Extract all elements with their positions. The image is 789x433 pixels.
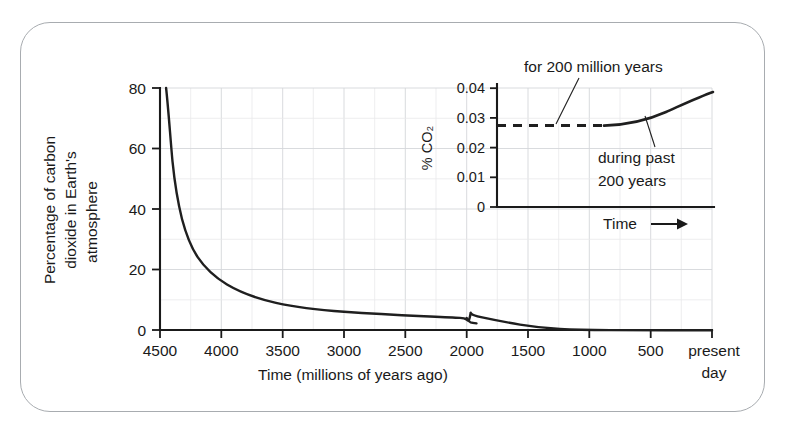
x-tick-label-500: 500 xyxy=(638,342,664,359)
x-tick-label-4500: 4500 xyxy=(143,342,178,359)
main-y-axis-title-line1: Percentage of carbon xyxy=(41,136,58,284)
inset-y-tick-label-0.04: 0.04 xyxy=(457,80,485,96)
inset-y-axis-title: % CO₂ xyxy=(419,126,435,170)
inset-leader-line-stable xyxy=(556,78,579,124)
annotation-during-past: during past xyxy=(598,149,675,166)
x-tick-label-present: present xyxy=(688,342,740,359)
x-tick-label-1500: 1500 xyxy=(511,342,546,359)
main-y-axis-title: Percentage of carbon dioxide in Earth's … xyxy=(41,136,100,284)
main-y-axis-title-line2: dioxide in Earth's xyxy=(62,151,79,269)
main-plot-axes xyxy=(152,88,712,338)
main-x-axis-title: Time (millions of years ago) xyxy=(258,366,448,383)
x-tick-label-2500: 2500 xyxy=(388,342,423,359)
inset-y-axis-title-text: % CO₂ xyxy=(419,126,435,170)
y-tick-label-40: 40 xyxy=(129,201,147,218)
annotation-for-200-million-years: for 200 million years xyxy=(524,58,663,75)
main-y-tick-labels: 0 20 40 60 80 xyxy=(129,80,147,339)
co2-figure: 0 20 40 60 80 4500 4000 3500 3000 2500 2… xyxy=(0,0,789,433)
x-tick-label-1000: 1000 xyxy=(572,342,607,359)
main-y-axis-title-line3: atmosphere xyxy=(83,181,100,263)
y-tick-label-0: 0 xyxy=(137,322,146,339)
x-tick-label-present-day: day xyxy=(702,364,727,381)
inset-y-tick-label-0.03: 0.03 xyxy=(457,110,485,126)
x-tick-label-4000: 4000 xyxy=(204,342,239,359)
x-tick-label-3000: 3000 xyxy=(327,342,362,359)
inset-y-tick-label-0.02: 0.02 xyxy=(457,140,485,156)
inset-annotations: for 200 million years during past 200 ye… xyxy=(524,58,675,189)
inset-y-tick-label-0.01: 0.01 xyxy=(457,169,485,185)
inset-x-axis-title: Time xyxy=(603,215,637,232)
inset-leader-line-rising xyxy=(645,116,655,147)
right-arrow-icon xyxy=(651,219,688,230)
inset-y-tick-label-0: 0 xyxy=(477,199,485,215)
y-tick-label-60: 60 xyxy=(129,140,147,157)
x-tick-label-3500: 3500 xyxy=(265,342,300,359)
x-tick-label-2000: 2000 xyxy=(449,342,484,359)
y-tick-label-20: 20 xyxy=(129,261,147,278)
annotation-200-years: 200 years xyxy=(598,172,666,189)
y-tick-label-80: 80 xyxy=(129,80,147,97)
